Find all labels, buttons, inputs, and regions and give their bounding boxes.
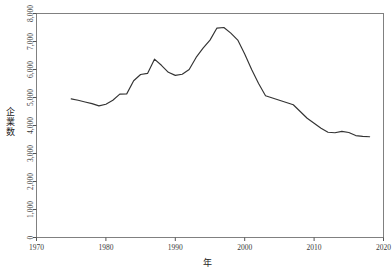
y-tick-label: 1,000 <box>26 201 35 218</box>
y-tick-label: 0 <box>26 235 35 239</box>
x-tick-label: 2020 <box>376 243 391 252</box>
y-axis-title-char: 数 <box>6 126 15 137</box>
y-axis-title-char: 業 <box>6 116 15 127</box>
y-tick-label: 6,000 <box>26 61 35 78</box>
x-tick-label: 2000 <box>237 243 252 252</box>
y-tick-label: 3,000 <box>26 145 35 162</box>
y-tick-label: 7,000 <box>26 33 35 50</box>
y-tick-label: 8,000 <box>26 5 35 22</box>
y-tick-label: 5,000 <box>26 89 35 106</box>
line-chart: 197019801990200020102020 01,0002,0003,00… <box>0 0 392 272</box>
y-axis-title: 企業数 <box>6 106 15 137</box>
chart-figure: 197019801990200020102020 01,0002,0003,00… <box>0 0 392 272</box>
x-tick-label: 2010 <box>307 243 322 252</box>
x-tick-label: 1990 <box>168 243 183 252</box>
y-axis-title-char: 企 <box>6 106 15 117</box>
chart-background <box>0 0 392 272</box>
x-tick-label: 1980 <box>98 243 113 252</box>
y-axis-tick-labels: 01,0002,0003,0004,0005,0006,0007,0008,00… <box>26 5 35 240</box>
x-axis-title: 年 <box>203 257 212 268</box>
x-tick-label: 1970 <box>29 243 44 252</box>
y-tick-label: 4,000 <box>26 117 35 134</box>
y-tick-label: 2,000 <box>26 173 35 190</box>
